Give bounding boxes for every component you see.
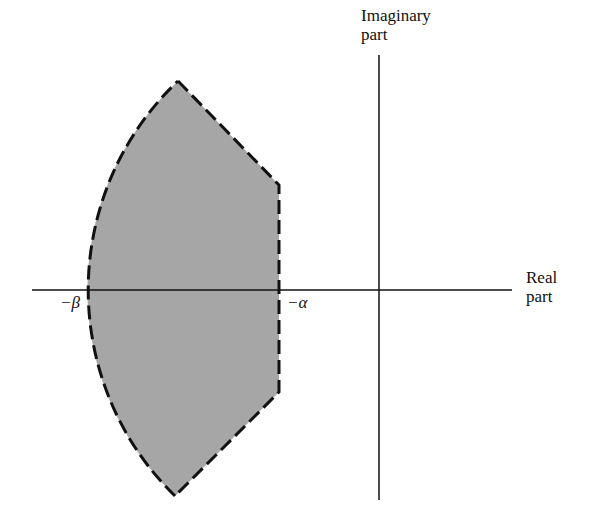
real-label-line1: Real: [526, 268, 557, 287]
real-axis-label: Real part: [526, 268, 557, 306]
beta-marker-label: −β: [60, 293, 80, 312]
complex-plane-diagram: [0, 0, 594, 527]
shaded-region: [87, 81, 279, 496]
real-label-line2: part: [526, 287, 557, 306]
imaginary-label-line2: part: [361, 25, 431, 44]
imaginary-axis-label: Imaginary part: [361, 6, 431, 44]
imaginary-label-line1: Imaginary: [361, 6, 431, 25]
alpha-marker-label: −α: [287, 293, 307, 312]
